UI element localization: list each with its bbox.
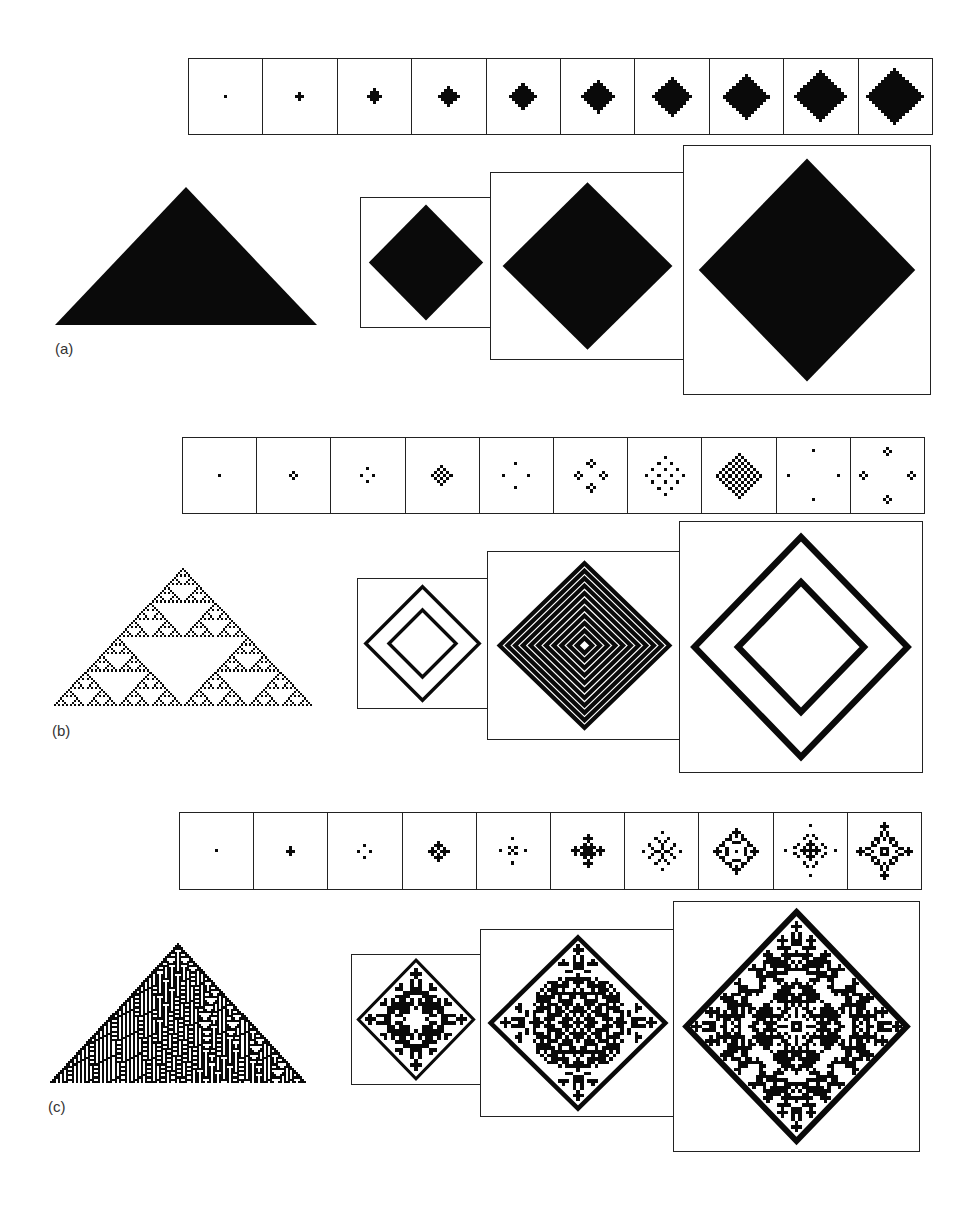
panel-b-step-8 — [702, 438, 776, 513]
panel-c-step-9 — [774, 813, 848, 889]
panel-c-large-step-2 — [480, 929, 676, 1117]
panel-b-step-3 — [331, 438, 405, 513]
panel-a-large-step-1 — [360, 197, 492, 328]
panel-c-step-8 — [699, 813, 773, 889]
panel-b-step-10 — [851, 438, 924, 513]
panel-c-step-10 — [848, 813, 921, 889]
panel-c-step-1 — [180, 813, 254, 889]
panel-a-triangle — [55, 187, 317, 325]
panel-c-step-7 — [625, 813, 699, 889]
panel-c-large-step-1 — [351, 954, 481, 1085]
panel-a-step-3 — [338, 59, 412, 134]
panel-a-step-4 — [412, 59, 486, 134]
panel-a-step-1 — [189, 59, 263, 134]
panel-a-step-7 — [635, 59, 709, 134]
panel-a-step-8 — [710, 59, 784, 134]
panel-c-step-strip — [179, 812, 922, 890]
panel-a-large-step-3 — [683, 145, 931, 395]
panel-a-step-9 — [784, 59, 858, 134]
panel-c-step-5 — [477, 813, 551, 889]
panel-b-step-4 — [406, 438, 480, 513]
panel-b-step-7 — [628, 438, 702, 513]
panel-b-step-strip — [182, 437, 925, 514]
panel-c-step-6 — [551, 813, 625, 889]
panel-c-large-step-3 — [673, 901, 920, 1152]
panel-a-step-6 — [561, 59, 635, 134]
panel-a-large-step-2 — [490, 172, 685, 360]
panel-b-triangle — [52, 568, 314, 706]
panel-c-triangle — [48, 943, 308, 1083]
panel-a-step-2 — [263, 59, 337, 134]
panel-b-large-step-1 — [357, 578, 488, 709]
panel-b-step-9 — [777, 438, 851, 513]
panel-b-label: (b) — [52, 722, 70, 739]
panel-b-step-2 — [257, 438, 331, 513]
panel-b-step-1 — [183, 438, 257, 513]
panel-b-step-6 — [554, 438, 628, 513]
panel-b-large-step-3 — [679, 521, 923, 773]
panel-c-step-4 — [403, 813, 477, 889]
panel-a-label: (a) — [55, 340, 73, 357]
panel-c-step-3 — [328, 813, 402, 889]
panel-a-step-10 — [859, 59, 932, 134]
panel-c-label: (c) — [48, 1098, 66, 1115]
panel-a-step-5 — [487, 59, 561, 134]
panel-b-large-step-2 — [487, 551, 682, 740]
panel-b-step-5 — [480, 438, 554, 513]
panel-c-step-2 — [254, 813, 328, 889]
panel-a-step-strip — [188, 58, 933, 135]
